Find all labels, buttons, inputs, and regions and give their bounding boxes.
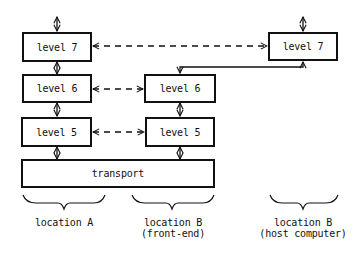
- brace-location-b-host: [270, 195, 338, 209]
- connector-host-to-frontend: [180, 62, 303, 73]
- label-location-b-frontend: location B: [132, 217, 214, 228]
- label-location-b-frontend-sub: (front-end): [132, 228, 214, 239]
- box-location-b-frontend-level5: level 5: [145, 117, 215, 147]
- label-location-a: location A: [23, 217, 105, 228]
- box-location-b-frontend-level6: level 6: [144, 74, 216, 103]
- brace-location-b-front-end: [132, 195, 214, 209]
- box-location-b-host-level7: level 7: [268, 32, 338, 61]
- label-location-b-host-sub: (host computer): [254, 228, 352, 239]
- box-location-a-level5: level 5: [21, 117, 92, 147]
- label-location-b-host: location B: [254, 217, 352, 228]
- brace-location-a: [23, 195, 105, 209]
- box-location-a-level7: level 7: [22, 32, 92, 62]
- box-transport: transport: [21, 159, 215, 188]
- box-location-a-level6: level 6: [22, 74, 92, 103]
